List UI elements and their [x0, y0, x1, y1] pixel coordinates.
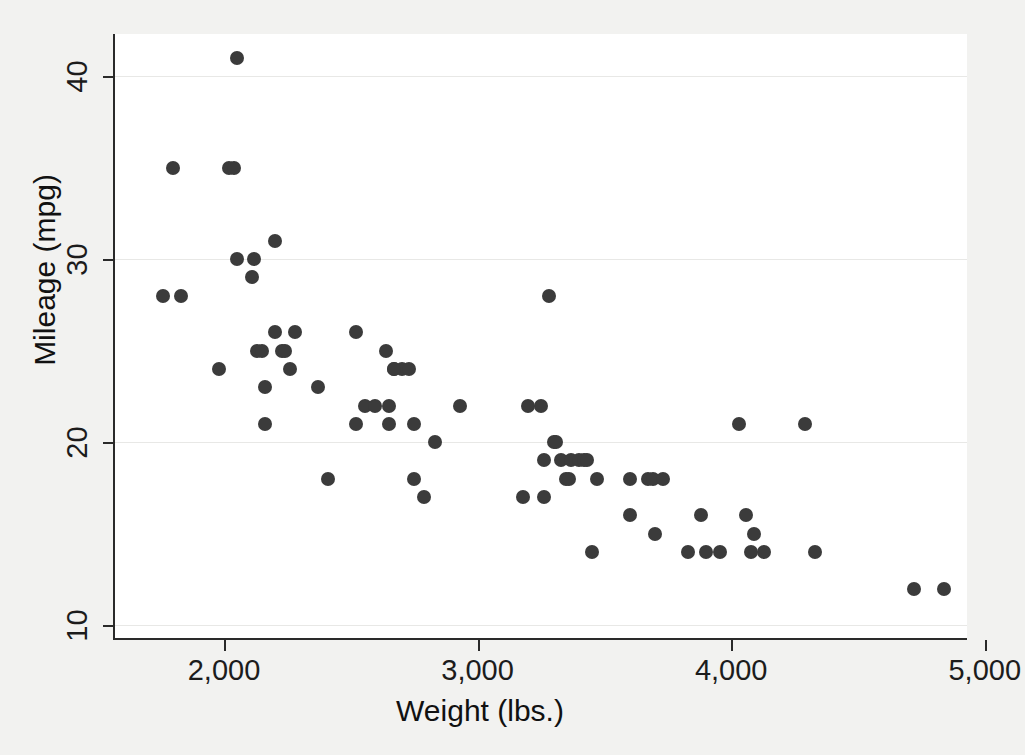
data-point	[681, 545, 695, 559]
y-axis-title-wrapper: Mileage (mpg)	[0, 250, 225, 290]
data-point	[537, 453, 551, 467]
data-point	[562, 472, 576, 486]
y-tick-label-text: 10	[62, 609, 91, 641]
data-point	[382, 399, 396, 413]
plot-area	[115, 34, 967, 638]
y-axis-line	[113, 34, 115, 640]
data-point	[311, 380, 325, 394]
x-tick-2000	[224, 640, 226, 651]
y-tick-10	[103, 625, 114, 627]
data-point	[580, 453, 594, 467]
data-point	[713, 545, 727, 559]
y-tick-label-text: 20	[62, 426, 91, 458]
data-point	[407, 417, 421, 431]
data-point	[694, 508, 708, 522]
data-point	[534, 399, 548, 413]
x-tick-4000	[731, 640, 733, 651]
data-point	[428, 435, 442, 449]
x-tick-label-5000: 5,000	[905, 654, 1025, 687]
data-point	[379, 344, 393, 358]
data-point	[227, 161, 241, 175]
data-point	[542, 289, 556, 303]
y-tick-label-20: 20	[50, 415, 104, 469]
data-point	[321, 472, 335, 486]
data-point	[648, 527, 662, 541]
data-point	[245, 270, 259, 284]
data-point	[166, 161, 180, 175]
data-point	[255, 344, 269, 358]
data-point	[212, 362, 226, 376]
data-point	[382, 417, 396, 431]
x-axis-title: Weight (lbs.)	[300, 694, 660, 728]
data-point	[349, 325, 363, 339]
data-point	[407, 472, 421, 486]
data-point	[268, 325, 282, 339]
data-point	[402, 362, 416, 376]
data-point	[417, 490, 431, 504]
x-axis-line	[113, 638, 967, 640]
data-point	[937, 582, 951, 596]
data-point	[798, 417, 812, 431]
data-point	[590, 472, 604, 486]
data-point	[656, 472, 670, 486]
data-point	[732, 417, 746, 431]
y-tick-40	[103, 76, 114, 78]
data-point	[699, 545, 713, 559]
data-point	[585, 545, 599, 559]
data-point	[757, 545, 771, 559]
data-point	[258, 380, 272, 394]
data-point	[268, 234, 282, 248]
data-point	[258, 417, 272, 431]
data-point	[623, 508, 637, 522]
data-point	[368, 399, 382, 413]
y-tick-label-text: 40	[62, 60, 91, 92]
x-tick-label-3000: 3,000	[398, 654, 558, 687]
x-tick-label-2000: 2,000	[144, 654, 304, 687]
data-point	[907, 582, 921, 596]
data-point	[278, 344, 292, 358]
data-point	[349, 417, 363, 431]
x-tick-label-4000: 4,000	[651, 654, 811, 687]
data-point	[387, 362, 401, 376]
data-point	[549, 435, 563, 449]
data-point	[230, 51, 244, 65]
data-point	[288, 325, 302, 339]
y-tick-label-10: 10	[50, 598, 104, 652]
data-point	[516, 490, 530, 504]
data-point	[247, 252, 261, 266]
data-point	[739, 508, 753, 522]
data-point	[156, 289, 170, 303]
x-tick-5000	[985, 640, 987, 651]
y-tick-20	[103, 442, 114, 444]
data-point	[453, 399, 467, 413]
y-tick-label-40: 40	[50, 49, 104, 103]
data-point	[537, 490, 551, 504]
x-tick-3000	[478, 640, 480, 651]
data-points-layer	[115, 34, 967, 638]
data-point	[623, 472, 637, 486]
data-point	[174, 289, 188, 303]
data-point	[747, 527, 761, 541]
data-point	[808, 545, 822, 559]
y-axis-title: Mileage (mpg)	[30, 174, 60, 366]
data-point	[283, 362, 297, 376]
data-point	[230, 252, 244, 266]
